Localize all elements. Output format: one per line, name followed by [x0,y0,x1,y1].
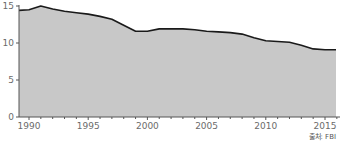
y-axis-ticks: 051015 [3,1,19,122]
y-tick-label: 10 [3,38,15,48]
y-tick-label: 5 [8,75,14,85]
x-tick-label: 1995 [77,121,100,131]
x-axis-ticks: 199019952000200520102015 [18,117,337,131]
x-tick-label: 2005 [195,121,218,131]
source-label: 출처: FBI [309,131,336,141]
x-tick-label: 2000 [136,121,159,131]
y-tick-label: 15 [3,1,14,11]
x-tick-label: 2010 [254,121,277,131]
area-chart: 051015 199019952000200520102015 [0,0,344,144]
y-tick-label: 0 [8,112,14,122]
x-tick-label: 1990 [18,121,41,131]
area-fill [19,6,336,117]
area-path [19,6,336,117]
x-tick-label: 2015 [314,121,337,131]
